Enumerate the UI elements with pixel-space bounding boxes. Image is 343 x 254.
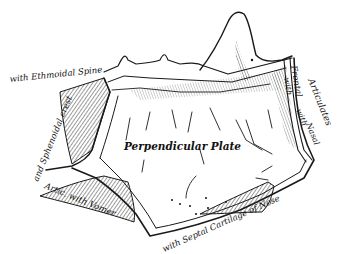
- label-perpendicular-plate: Perpendicular Plate: [123, 140, 241, 152]
- ethmoid-perpendicular-plate-illustration: Perpendicular Plate with Ethmoidal Spine…: [0, 0, 343, 254]
- vascular-grooves: [126, 108, 272, 198]
- label-articulates: Articulates: [306, 76, 334, 127]
- label-ethmoidal-spine: with Ethmoidal Spine: [9, 64, 103, 84]
- upper-ridge: [104, 55, 292, 100]
